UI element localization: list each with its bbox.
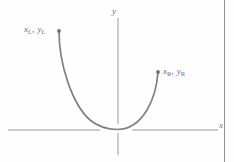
left-label-y-subscript: L xyxy=(41,28,45,35)
y-axis-label: y xyxy=(112,7,116,16)
left-endpoint-marker xyxy=(57,29,61,33)
right-label-x-subscript: R xyxy=(167,70,171,77)
left-label-x-subscript: L xyxy=(28,28,32,35)
left-endpoint-label: xL, yL xyxy=(24,25,45,34)
right-endpoint-marker xyxy=(156,70,160,74)
right-label-y-subscript: R xyxy=(181,70,185,77)
right-endpoint-label: xR, yR xyxy=(163,67,185,76)
parabola-figure: xL, yL xR, yR y x xyxy=(0,0,234,162)
parabola-curve xyxy=(59,31,158,130)
x-axis-label: x xyxy=(219,121,223,130)
